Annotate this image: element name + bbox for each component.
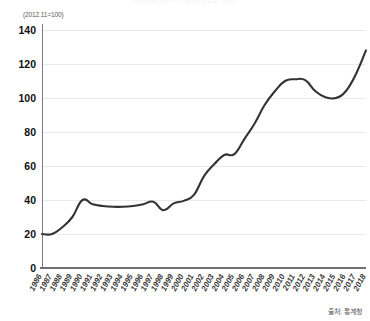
y-axis-tick-label: 40 [24,194,36,206]
source-note: 출처: 통계청 [328,306,362,316]
y-axis-tick-label: 0 [30,262,36,274]
chart-container: 주택매매가격 종합지수 추이 (2012.11=100) 02040608010… [0,0,370,321]
x-axis-tick-labels: 1986198719881989199019911992199319941995… [27,272,368,293]
y-axis-tick-labels: 020406080100120140 [18,24,36,274]
y-axis-tick-label: 60 [24,160,36,172]
y-axis-tick-label: 20 [24,228,36,240]
y-axis-tick-label: 80 [24,126,36,138]
data-series-line [42,50,366,234]
y-axis-tick-label: 140 [18,24,36,36]
line-chart-plot: 020406080100120140 198619871988198919901… [0,0,370,321]
y-axis-tick-label: 100 [18,92,36,104]
y-axis-tick-label: 120 [18,58,36,70]
